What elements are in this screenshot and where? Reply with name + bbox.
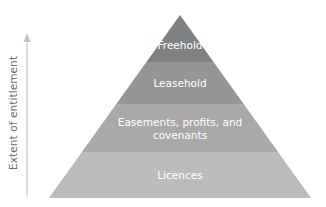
axis-label: Extent of entitlement [7, 56, 19, 170]
layer-label-licences: Licences [157, 169, 202, 182]
layer-label-leasehold: Leasehold [153, 77, 206, 90]
axis-arrow-icon [24, 33, 31, 197]
layer-label-easements-line1: Easements, profits, and [118, 116, 242, 129]
layer-label-freehold: Freehold [158, 39, 203, 52]
layer-label-easements-line2: covenants [118, 129, 242, 142]
layer-label-easements: Easements, profits, and covenants [118, 116, 242, 142]
entitlement-pyramid-diagram: Extent of entitlement Freehold Leasehold… [0, 0, 326, 207]
